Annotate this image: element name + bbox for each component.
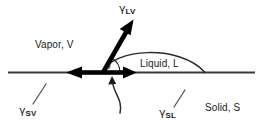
gamma-sv-label: γSV	[19, 105, 37, 116]
liquid-phase-label: Liquid, L	[140, 59, 179, 69]
gamma-lv-symbol: γ	[119, 2, 126, 15]
gamma-sv-symbol: γ	[19, 104, 26, 117]
gamma-sv-subscript: SV	[26, 109, 37, 118]
vapor-phase-label: Vapor, V	[35, 40, 73, 50]
gamma-lv-label: γLV	[119, 3, 136, 14]
theta-angle-label: θ	[105, 61, 111, 71]
gamma-lv-subscript: LV	[126, 7, 136, 16]
gamma-sl-leader-line	[174, 90, 185, 107]
contact-point-pointer	[108, 76, 120, 113]
contact-angle-diagram: γLV γSV γSL Vapor, V Liquid, L Solid, S …	[0, 0, 263, 128]
gamma-sl-label: γSL	[159, 107, 176, 118]
solid-phase-label: Solid, S	[205, 103, 240, 113]
gamma-sl-symbol: γ	[159, 106, 166, 119]
gamma-sl-subscript: SL	[166, 111, 177, 120]
gamma-sv-leader-line	[33, 84, 46, 104]
gamma-sv-vector	[66, 66, 103, 78]
